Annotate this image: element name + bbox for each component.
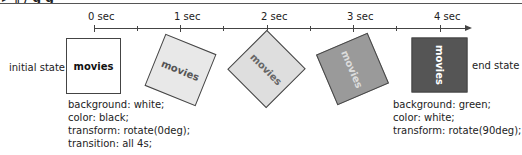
box-1sec: movies — [145, 34, 217, 107]
tick-major — [440, 25, 441, 32]
box-3sec: movies — [316, 33, 389, 106]
arrow-right-icon — [465, 25, 472, 31]
end-state-label: end state — [472, 60, 519, 71]
tick-label-1: 1 sec — [174, 11, 200, 22]
tick-minor — [137, 26, 138, 31]
tick-label-4: 4 sec — [434, 11, 460, 22]
tick-major — [180, 25, 181, 32]
box-2sec: movies — [227, 30, 305, 108]
css-line: color: black; — [68, 111, 190, 124]
box-0sec: movies — [66, 38, 121, 94]
box-text: movies — [434, 45, 445, 85]
box-text: movies — [340, 48, 366, 89]
box-text: movies — [248, 51, 284, 87]
end-css-block: background: green; color: white; transfo… — [393, 98, 521, 137]
box-text: movies — [160, 57, 201, 82]
tick-major — [94, 25, 95, 32]
css-line: color: white; — [393, 111, 521, 124]
tick-minor — [396, 26, 397, 31]
box-4sec: movies — [412, 38, 468, 93]
css-line: transition: all 4s; — [68, 137, 190, 150]
tick-label-2: 2 sec — [261, 11, 287, 22]
css-line: background: green; — [393, 98, 521, 111]
initial-state-label: initial state — [9, 62, 65, 73]
tick-label-3: 3 sec — [347, 11, 373, 22]
css-line: background: white; — [68, 98, 190, 111]
tick-label-0: 0 sec — [88, 11, 114, 22]
initial-css-block: background: white; color: black; transfo… — [68, 98, 190, 150]
tick-minor — [310, 26, 311, 31]
timeline-axis — [94, 28, 466, 29]
tick-minor — [223, 26, 224, 31]
css-line: transform: rotate(90deg); — [393, 124, 521, 137]
css-line: transform: rotate(0deg); — [68, 124, 190, 137]
tick-major — [353, 25, 354, 32]
top-divider — [0, 3, 522, 4]
box-text: movies — [74, 61, 114, 72]
